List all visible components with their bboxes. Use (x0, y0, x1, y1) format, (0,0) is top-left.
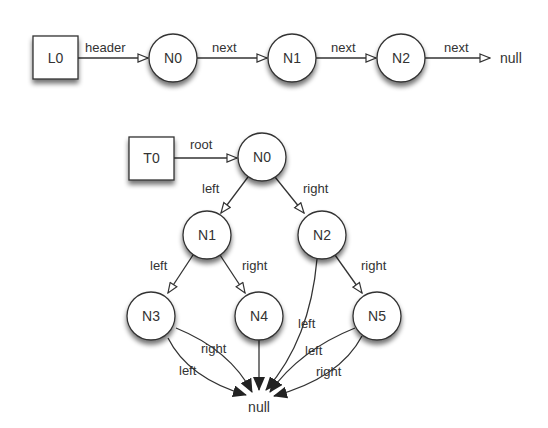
tree-node-label: N5 (368, 308, 386, 324)
list-node-label: N1 (283, 50, 301, 66)
diagram-canvas: header next next next L0 N0 N1 N2 null r… (0, 0, 548, 428)
edge-label-right: right (303, 181, 329, 196)
edge-label-left: left (179, 363, 197, 378)
list-head-label: L0 (48, 50, 64, 66)
list-null-label: null (500, 50, 522, 66)
edge-label-next: next (331, 40, 356, 55)
list-node-label: N0 (164, 50, 182, 66)
edge-n0-right (275, 177, 304, 213)
edge-label-left: left (305, 343, 323, 358)
tree-null-label: null (248, 399, 270, 415)
edge-label-right: right (361, 258, 387, 273)
edge-label-header: header (85, 40, 126, 55)
edge-label-right: right (242, 258, 268, 273)
edge-label-next: next (444, 40, 469, 55)
edge-n5-left-null (270, 328, 355, 392)
list-node-label: N2 (392, 50, 410, 66)
binary-tree: root left right left right right right l… (127, 133, 401, 415)
edge-label-left: left (150, 258, 168, 273)
edge-label-left: left (298, 316, 316, 331)
edge-label-root: root (190, 137, 213, 152)
tree-node-label: N3 (142, 308, 160, 324)
tree-node-label: N2 (313, 227, 331, 243)
tree-node-label: N1 (198, 227, 216, 243)
edge-label-next: next (212, 40, 237, 55)
edge-label-left: left (202, 181, 220, 196)
edge-n1-left (168, 255, 193, 293)
linked-list: header next next next L0 N0 N1 N2 null (33, 34, 522, 82)
edge-label-right: right (316, 364, 342, 379)
tree-head-label: T0 (143, 150, 160, 166)
edge-n2-right (335, 255, 362, 293)
tree-node-label: N4 (250, 308, 268, 324)
tree-node-label: N0 (253, 149, 271, 165)
edge-label-right: right (201, 341, 227, 356)
edge-n0-left (221, 177, 248, 213)
